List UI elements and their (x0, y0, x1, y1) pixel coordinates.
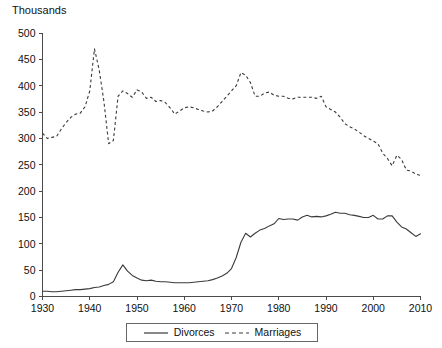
legend-line-dashed-icon (224, 329, 250, 337)
x-tick-label: 2000 (362, 302, 386, 314)
y-tick-label: 400 (18, 80, 36, 92)
y-tick-label: 150 (18, 211, 36, 223)
y-tick-label: 350 (18, 106, 36, 118)
legend-label-marriages: Marriages (255, 327, 302, 338)
x-tick-label: 1930 (31, 302, 55, 314)
y-tick-label: 100 (18, 238, 36, 250)
x-tick-label: 1980 (267, 302, 291, 314)
y-tick-label: 0 (30, 290, 36, 302)
series-line-marriages (43, 49, 421, 175)
y-tick-label: 450 (18, 53, 36, 65)
x-tick-label: 1970 (220, 302, 244, 314)
x-tick-label: 1990 (314, 302, 338, 314)
legend-entry-divorces: Divorces (143, 327, 215, 338)
y-tick-label: 50 (24, 264, 36, 276)
data-series (43, 49, 421, 292)
x-axis-ticks: 193019401950196019701980199020002010 (31, 297, 433, 314)
x-tick-label: 1960 (173, 302, 197, 314)
legend-line-solid-icon (143, 329, 169, 337)
legend-entry-marriages: Marriages (224, 327, 302, 338)
series-line-divorces (43, 212, 421, 292)
legend-label-divorces: Divorces (174, 327, 215, 338)
divorces-marriages-line-chart: Thousands 050100150200250300350400450500… (0, 0, 442, 348)
x-tick-label: 2010 (409, 302, 433, 314)
x-tick-label: 1950 (125, 302, 149, 314)
y-tick-label: 200 (18, 185, 36, 197)
y-tick-label: 500 (18, 27, 36, 39)
y-axis-ticks: 050100150200250300350400450500 (18, 27, 43, 303)
x-tick-label: 1940 (78, 302, 102, 314)
plot-area: 050100150200250300350400450500 193019401… (0, 0, 442, 348)
y-tick-label: 300 (18, 132, 36, 144)
chart-legend: Divorces Marriages (126, 323, 318, 342)
y-tick-label: 250 (18, 159, 36, 171)
